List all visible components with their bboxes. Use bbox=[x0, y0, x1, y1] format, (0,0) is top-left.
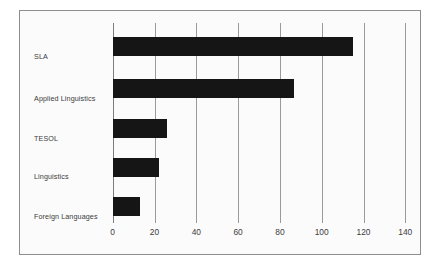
xtick-label-60: 60 bbox=[223, 227, 253, 238]
xtick-label-120: 120 bbox=[349, 227, 379, 238]
gridline-120 bbox=[364, 23, 365, 223]
xtick-label-0: 0 bbox=[98, 227, 128, 238]
gridline-140 bbox=[405, 23, 406, 223]
category-label-tesol: TESOL bbox=[34, 134, 107, 143]
bar-sla bbox=[113, 37, 353, 56]
xtick-label-40: 40 bbox=[181, 227, 211, 238]
chart-figure: SLA Applied Linguistics TESOL Linguistic… bbox=[19, 10, 421, 255]
xtick-label-100: 100 bbox=[307, 227, 337, 238]
category-label-foreign-languages: Foreign Languages bbox=[34, 212, 107, 221]
category-label-linguistics: Linguistics bbox=[34, 172, 107, 181]
category-label-applied-linguistics: Applied Linguistics bbox=[34, 94, 107, 103]
xtick-label-80: 80 bbox=[265, 227, 295, 238]
xtick-label-20: 20 bbox=[140, 227, 170, 238]
bar-linguistics bbox=[113, 158, 159, 177]
plot-area: SLA Applied Linguistics TESOL Linguistic… bbox=[20, 11, 420, 254]
bar-applied-linguistics bbox=[113, 79, 295, 98]
category-label-sla: SLA bbox=[34, 52, 107, 61]
bar-tesol bbox=[113, 119, 167, 138]
bar-foreign-languages bbox=[113, 197, 140, 216]
xtick-label-140: 140 bbox=[390, 227, 420, 238]
